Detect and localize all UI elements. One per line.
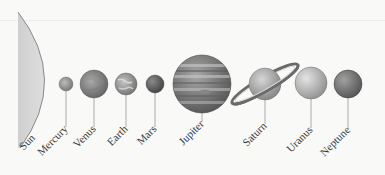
solar-system-diagram: Sun Mercury Venus Earth Mars Jupiter Sat…: [0, 0, 385, 175]
neptune-body: [334, 70, 362, 98]
uranus-body: [295, 67, 327, 99]
mercury-body: [59, 77, 73, 91]
mars-body: [146, 75, 164, 93]
earth-body: [115, 73, 137, 95]
venus-body: [80, 70, 108, 98]
jupiter-body: [170, 55, 234, 113]
sun-body: [18, 12, 45, 148]
